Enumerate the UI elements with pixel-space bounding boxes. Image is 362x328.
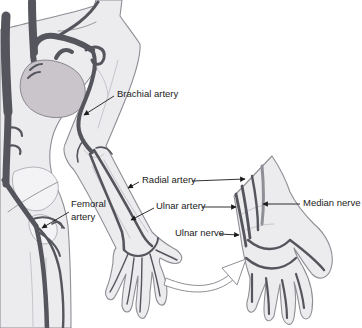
- femoral-artery-label: Femoral artery: [71, 198, 115, 223]
- median-nerve-vessel: [262, 166, 264, 224]
- median-nerve-label: Median nerve: [303, 197, 361, 210]
- anatomy-diagram: Brachial artery Radial artery Ulnar arte…: [0, 0, 362, 328]
- brachial-artery-label: Brachial artery: [117, 88, 178, 101]
- ulnar-artery-label: Ulnar artery: [156, 200, 206, 213]
- magnified-hand: [234, 156, 332, 324]
- abdominal-aorta: [6, 112, 8, 184]
- descending-aorta: [5, 16, 8, 112]
- magnify-arrow-shaft: [164, 274, 234, 292]
- ulnar-nerve-label: Ulnar nerve: [175, 227, 224, 240]
- radial-pointer-left: [128, 182, 139, 188]
- illustration-canvas: [0, 0, 362, 328]
- radial-artery-label: Radial artery: [142, 174, 196, 187]
- radial-pointer-right: [192, 179, 245, 181]
